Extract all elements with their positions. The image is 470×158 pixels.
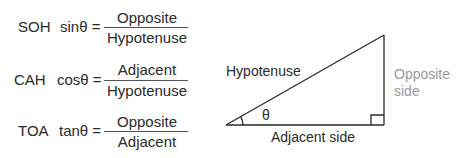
- right-angle-marker: [371, 115, 384, 125]
- hypotenuse-line: [226, 35, 384, 125]
- theta-label: θ: [262, 107, 270, 123]
- adjacent-side-label: Adjacent side: [271, 129, 355, 145]
- opposite-side-label-line2: side: [394, 83, 420, 99]
- opposite-side-label-line1: Opposite: [394, 66, 450, 82]
- angle-arc: [241, 117, 243, 125]
- hypotenuse-label: Hypotenuse: [226, 63, 301, 79]
